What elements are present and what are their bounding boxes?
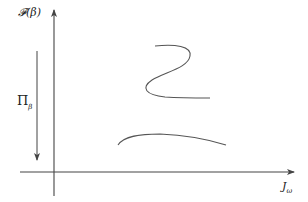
y-axis-label: 𝓕(β) (18, 7, 41, 18)
diagram-canvas (0, 0, 308, 202)
s-curve-upper (146, 45, 210, 98)
pi-label-sub: β (28, 103, 32, 111)
pi-label-main: Π (17, 93, 28, 108)
x-axis-label: Jω (282, 181, 292, 195)
arc-lower (118, 134, 226, 145)
diagram: 𝓕(β) Πβ Jω (0, 0, 308, 202)
pi-label: Πβ (17, 94, 32, 111)
x-axis-label-sub: ω (286, 187, 292, 195)
y-axis-label-text: 𝓕(β) (18, 6, 41, 19)
